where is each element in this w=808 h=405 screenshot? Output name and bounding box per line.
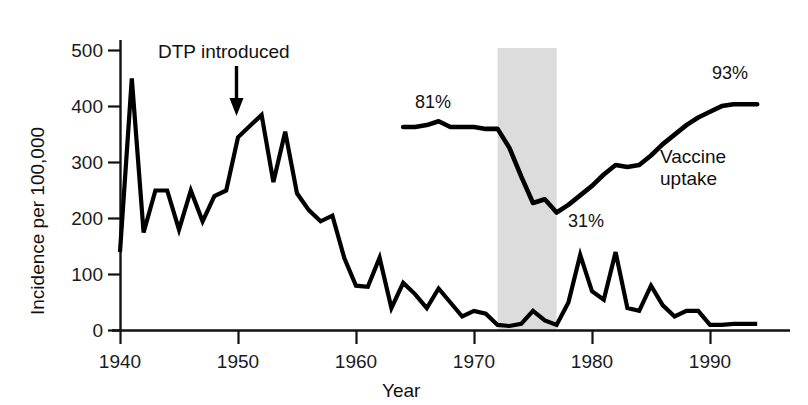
annotation-uptake-81-percent: 81% <box>415 93 451 111</box>
x-tick-label-1950: 1950 <box>198 352 278 371</box>
annotation-uptake-93-percent: 93% <box>712 64 748 82</box>
x-tick-marks <box>121 330 711 344</box>
chart-plot-area <box>0 0 808 405</box>
series-label-vaccine-uptake: Vaccine uptake <box>660 146 726 191</box>
annotation-dtp-introduced: DTP introduced <box>158 42 290 61</box>
y-tick-marks <box>108 51 121 331</box>
series-label-line-2: uptake <box>660 168 717 189</box>
x-tick-label-1960: 1960 <box>316 352 396 371</box>
y-tick-label-500: 500 <box>55 41 103 60</box>
y-tick-label-300: 300 <box>55 153 103 172</box>
dtp-arrow-icon <box>230 66 244 116</box>
y-tick-label-200: 200 <box>55 209 103 228</box>
x-axis-title: Year <box>382 381 420 400</box>
y-tick-label-100: 100 <box>55 265 103 284</box>
x-tick-label-1940: 1940 <box>80 352 160 371</box>
annotation-uptake-31-percent: 31% <box>568 212 604 230</box>
y-tick-label-0: 0 <box>55 321 103 340</box>
y-axis-title: Incidence per 100,000 <box>28 127 47 315</box>
x-tick-label-1990: 1990 <box>670 352 750 371</box>
chart-figure: Incidence per 100,000 500 400 300 200 10… <box>0 0 808 405</box>
x-tick-label-1970: 1970 <box>434 352 514 371</box>
y-tick-label-400: 400 <box>55 97 103 116</box>
x-tick-label-1980: 1980 <box>552 352 632 371</box>
series-incidence <box>120 79 757 327</box>
series-label-line-1: Vaccine <box>660 146 726 167</box>
